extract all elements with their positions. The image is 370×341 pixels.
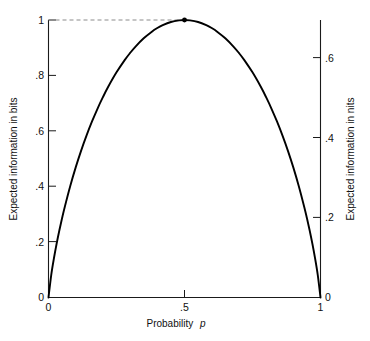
- bottom-tick-label-0: 0: [46, 301, 52, 313]
- x-axis-title: Probability p: [146, 318, 205, 329]
- x-axis-title-variable: p: [199, 318, 206, 329]
- right-tick-label-06: .6: [325, 52, 334, 64]
- x-axis-title-prefix: Probability: [146, 318, 193, 329]
- left-tick-label-08: .8: [35, 69, 44, 81]
- left-axis-group: 1 .8 .6 .4 .2 0 Expected information in …: [8, 14, 56, 303]
- chart-canvas: 1 .8 .6 .4 .2 0 Expected information in …: [0, 0, 370, 341]
- right-axis-title: Expected information in nits: [345, 98, 356, 221]
- bottom-axis-group: 0 .5 1 Probability p: [46, 290, 324, 329]
- left-tick-label-04: .4: [35, 180, 44, 192]
- bottom-tick-label-1: 1: [318, 301, 324, 313]
- peak-marker-dot: [182, 18, 187, 23]
- left-tick-label-0: 0: [38, 291, 44, 303]
- left-tick-label-1: 1: [38, 14, 44, 26]
- bottom-tick-label-05: .5: [180, 301, 189, 313]
- entropy-chart-figure: 1 .8 .6 .4 .2 0 Expected information in …: [0, 0, 370, 341]
- left-axis-title: Expected information in bits: [8, 98, 19, 221]
- right-tick-label-04: .4: [325, 132, 334, 144]
- left-tick-label-02: .2: [35, 236, 44, 248]
- right-tick-label-02: .2: [325, 211, 334, 223]
- right-axis-group: .6 .4 .2 0 Expected information in nits: [313, 20, 356, 303]
- left-tick-label-06: .6: [35, 125, 44, 137]
- right-tick-label-0: 0: [325, 291, 331, 303]
- entropy-curve: [49, 20, 321, 298]
